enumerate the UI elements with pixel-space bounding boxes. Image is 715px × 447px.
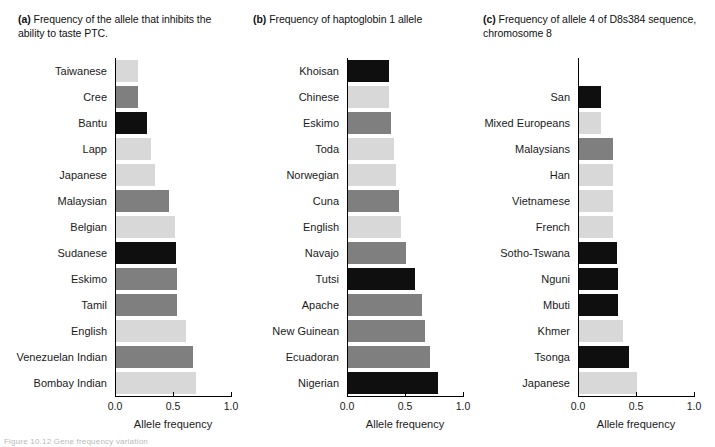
panel-c-title: (c) Frequency of allele 4 of D8s384 sequ…	[483, 13, 707, 40]
x-axis-tick	[405, 392, 406, 396]
bar-row: Han	[472, 162, 712, 188]
bar-row-label: Belgian	[0, 214, 113, 240]
x-axis-tick-label: 0.5	[153, 400, 193, 412]
bar-row: Taiwanese	[0, 58, 240, 84]
bar-row-label: Tamil	[0, 292, 113, 318]
bar-row-label: Cuna	[240, 188, 345, 214]
bar-row: Cuna	[240, 188, 480, 214]
bar-row: Tsonga	[472, 344, 712, 370]
bar-row-label: Nguni	[472, 266, 576, 292]
bar-row: Bombay Indian	[0, 370, 240, 396]
bar-row-label: New Guinean	[240, 318, 345, 344]
bar-row: New Guinean	[240, 318, 480, 344]
bar	[116, 346, 193, 368]
bar-row: Mbuti	[472, 292, 712, 318]
panel-b-letter: (b)	[253, 13, 266, 25]
bar-row: Eskimo	[0, 266, 240, 292]
bar	[348, 60, 389, 82]
bar-row-label: Apache	[240, 292, 345, 318]
bar	[579, 216, 613, 238]
bar	[579, 346, 629, 368]
panel-c-title-text: Frequency of allele 4 of D8s384 sequence…	[483, 13, 696, 39]
bar-row: Norwegian	[240, 162, 480, 188]
x-axis-tick-label: 0.5	[385, 400, 425, 412]
x-axis-line	[347, 396, 464, 397]
x-axis-tick	[231, 392, 232, 396]
bar-row: San	[472, 84, 712, 110]
panel-c-letter: (c)	[483, 13, 496, 25]
bar	[116, 60, 138, 82]
bar	[348, 86, 389, 108]
bar-row-label: English	[0, 318, 113, 344]
x-axis-tick-label: 0.0	[327, 400, 367, 412]
bar	[348, 320, 425, 342]
bar	[116, 372, 196, 394]
panel-a: (a) Frequency of the allele that inhibit…	[0, 0, 240, 447]
bar-row-label: Mbuti	[472, 292, 576, 318]
bar	[116, 294, 177, 316]
bar-row: Chinese	[240, 84, 480, 110]
bar-row-label: Nigerian	[240, 370, 345, 396]
bar-row: Navajo	[240, 240, 480, 266]
bar-row-label: Japanese	[472, 370, 576, 396]
bar	[116, 268, 177, 290]
bar	[579, 268, 618, 290]
bar-row: Sudanese	[0, 240, 240, 266]
bar	[579, 112, 601, 134]
bar-row-label: Ecuadoran	[240, 344, 345, 370]
bar	[348, 294, 422, 316]
bar	[116, 320, 186, 342]
x-axis-tick-label: 0.0	[95, 400, 135, 412]
x-axis-tick	[173, 392, 174, 396]
bar-row: Lapp	[0, 136, 240, 162]
bar-row-label: English	[240, 214, 345, 240]
bar-row: Vietnamese	[472, 188, 712, 214]
bar	[579, 242, 617, 264]
panel-b: (b) Frequency of haptoglobin 1 allele Kh…	[240, 0, 472, 447]
x-axis-tick-label: 0.0	[558, 400, 598, 412]
bar	[348, 242, 406, 264]
panel-b-title: (b) Frequency of haptoglobin 1 allele	[253, 13, 463, 27]
x-axis-tick	[347, 392, 348, 396]
bar-row: Japanese	[472, 370, 712, 396]
bar-row-label: Navajo	[240, 240, 345, 266]
x-axis-line	[578, 396, 695, 397]
bar-row: Bantu	[0, 110, 240, 136]
bar-row: Nguni	[472, 266, 712, 292]
x-axis-tick-label: 1.0	[674, 400, 714, 412]
bar	[579, 86, 601, 108]
bar-row-label: San	[472, 84, 576, 110]
bar	[116, 164, 155, 186]
y-axis-line	[578, 58, 579, 396]
bar-row-label: Vietnamese	[472, 188, 576, 214]
bar-row-label: Eskimo	[0, 266, 113, 292]
bar-row: Eskimo	[240, 110, 480, 136]
bar-row: English	[240, 214, 480, 240]
bar-row: Venezuelan Indian	[0, 344, 240, 370]
bar-row: Toda	[240, 136, 480, 162]
panel-b-title-text: Frequency of haptoglobin 1 allele	[269, 13, 422, 25]
bar-row: Belgian	[0, 214, 240, 240]
panel-a-title: (a) Frequency of the allele that inhibit…	[18, 13, 230, 40]
bar-row-label: Khoisan	[240, 58, 345, 84]
panel-a-title-text: Frequency of the allele that inhibits th…	[18, 13, 211, 39]
bar	[348, 372, 438, 394]
bar	[116, 138, 151, 160]
bar	[348, 268, 415, 290]
x-axis-tick	[115, 392, 116, 396]
bar-row-label: Sotho-Tswana	[472, 240, 576, 266]
bar-row-label: Bombay Indian	[0, 370, 113, 396]
bar-row-label: Tsonga	[472, 344, 576, 370]
bar-row-label: Mixed Europeans	[472, 110, 576, 136]
bar-row: French	[472, 214, 712, 240]
bar	[116, 242, 176, 264]
bar-row-label: Han	[472, 162, 576, 188]
bar-row-label: Eskimo	[240, 110, 345, 136]
x-axis-line	[115, 396, 232, 397]
bar-row: Tutsi	[240, 266, 480, 292]
panel-a-letter: (a)	[18, 13, 31, 25]
x-axis-tick	[694, 392, 695, 396]
bar-row-label: Norwegian	[240, 162, 345, 188]
bar	[348, 138, 394, 160]
bar-row-label: Lapp	[0, 136, 113, 162]
